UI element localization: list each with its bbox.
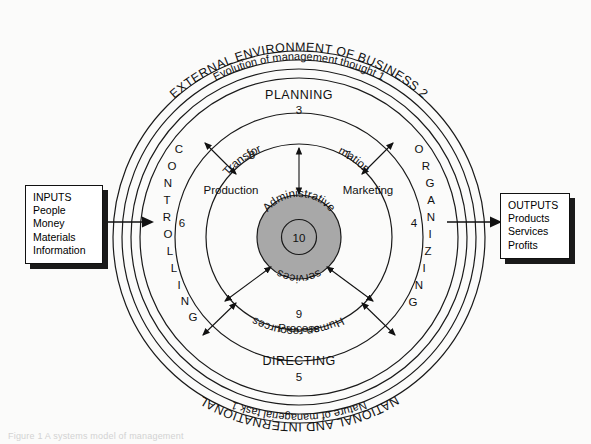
- function-planning-label: PLANNING: [265, 88, 333, 102]
- svg-text:O: O: [164, 228, 173, 240]
- transformation-label-part2: mation: [337, 144, 373, 175]
- figure-caption: Figure 1 A systems model of management: [8, 431, 184, 441]
- outputs-item-profits: Profits: [508, 239, 562, 252]
- process-label: Process: [278, 322, 320, 334]
- diagram-canvas: EXTERNAL ENVIRONMENT OF BUSINESS 2 Evolu…: [0, 0, 591, 444]
- inputs-box: INPUTS People Money Materials Informatio…: [25, 185, 103, 264]
- function-controlling-number: 6: [179, 217, 185, 229]
- svg-text:N: N: [164, 177, 172, 189]
- production-label: Production: [204, 184, 259, 196]
- inputs-item-money: Money: [33, 217, 95, 230]
- svg-text:N: N: [181, 295, 189, 307]
- center-number: 10: [293, 232, 306, 244]
- transformation-label-part1: Transfor: [220, 142, 262, 177]
- svg-text:I: I: [177, 279, 180, 291]
- production-number: 8: [249, 149, 255, 161]
- arrow-lower-left: [203, 303, 236, 335]
- svg-text:R: R: [422, 160, 430, 172]
- svg-text:G: G: [189, 311, 198, 323]
- function-organizing-number: 4: [411, 217, 418, 229]
- function-planning-number: 3: [296, 104, 302, 116]
- svg-text:T: T: [163, 194, 170, 206]
- svg-text:I: I: [428, 228, 431, 240]
- inputs-title: INPUTS: [33, 191, 95, 204]
- outputs-box: OUTPUTS Products Services Profits: [500, 193, 570, 259]
- function-controlling-label: C O N T R O L L I N G: [163, 143, 198, 323]
- svg-text:O: O: [168, 160, 177, 172]
- outputs-title: OUTPUTS: [508, 199, 562, 212]
- svg-text:L: L: [171, 262, 178, 274]
- svg-text:G: G: [409, 296, 418, 308]
- arrow-lower-right: [362, 303, 395, 335]
- inputs-item-materials: Materials: [33, 231, 95, 244]
- svg-text:N: N: [427, 211, 435, 223]
- human-resources-number: 9: [296, 308, 302, 320]
- inputs-item-people: People: [33, 204, 95, 217]
- function-directing-label: DIRECTING: [262, 354, 335, 368]
- svg-text:L: L: [167, 245, 174, 257]
- outputs-item-products: Products: [508, 212, 562, 225]
- arrow-center-lower-right: [327, 267, 373, 301]
- inputs-item-information: Information: [33, 244, 95, 257]
- svg-text:N: N: [415, 279, 423, 291]
- svg-text:C: C: [175, 143, 183, 155]
- svg-text:G: G: [426, 177, 435, 189]
- svg-text:I: I: [422, 262, 425, 274]
- svg-text:A: A: [427, 194, 435, 206]
- svg-text:Z: Z: [424, 245, 431, 257]
- marketing-label: Marketing: [343, 184, 394, 196]
- outputs-item-services: Services: [508, 225, 562, 238]
- arrow-center-lower-left: [225, 267, 271, 301]
- function-directing-number: 5: [296, 371, 302, 383]
- marketing-number: 7: [345, 149, 351, 161]
- svg-text:R: R: [163, 211, 171, 223]
- svg-text:O: O: [415, 143, 424, 155]
